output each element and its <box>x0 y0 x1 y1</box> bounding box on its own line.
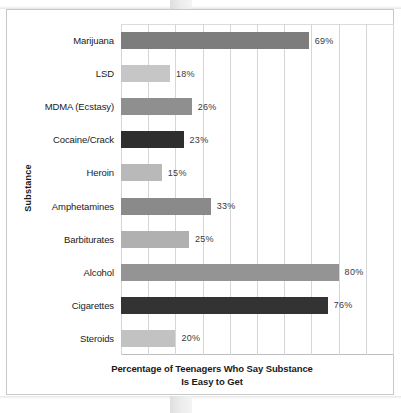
bar-cell: 76% <box>121 289 393 322</box>
bar-cell: 20% <box>121 322 393 355</box>
bar-cell: 23% <box>121 123 393 156</box>
x-axis-title: Percentage of Teenagers Who Say Substanc… <box>31 362 393 388</box>
bar-row: Steroids20% <box>31 322 393 355</box>
bar-row: Cocaine/Crack23% <box>31 123 393 156</box>
bar[interactable] <box>121 65 170 82</box>
bar[interactable] <box>121 231 189 248</box>
x-axis-title-line-1: Percentage of Teenagers Who Say Substanc… <box>31 362 393 375</box>
category-label: Heroin <box>31 167 121 178</box>
scan-artifact-top <box>170 0 192 9</box>
category-label: Cocaine/Crack <box>31 134 121 145</box>
category-label: Cigarettes <box>31 300 121 311</box>
bar-value-label: 33% <box>217 201 236 211</box>
bar-cell: 80% <box>121 256 393 289</box>
bar-cell: 26% <box>121 90 393 123</box>
bar-row: Alcohol80% <box>31 256 393 289</box>
bar-cell: 69% <box>121 24 393 57</box>
gridline-100 <box>393 24 394 355</box>
bar-row: Heroin15% <box>31 156 393 189</box>
category-label: Amphetamines <box>31 201 121 212</box>
bar[interactable] <box>121 131 184 148</box>
scan-artifact-bottom <box>170 396 192 413</box>
bar-value-label: 15% <box>168 168 187 178</box>
figure-frame: Substance Marijuana69%LSD18%MDMA (Ecstas… <box>6 9 394 395</box>
bar-value-label: 18% <box>176 69 195 79</box>
bar[interactable] <box>121 164 162 181</box>
bar-row: Amphetamines33% <box>31 189 393 222</box>
bar-row: Cigarettes76% <box>31 289 393 322</box>
bar-chart-figure: Substance Marijuana69%LSD18%MDMA (Ecstas… <box>0 0 401 413</box>
category-label: Alcohol <box>31 267 121 278</box>
bar[interactable] <box>121 32 309 49</box>
bar[interactable] <box>121 264 339 281</box>
bar[interactable] <box>121 98 192 115</box>
x-axis-title-line-2: Is Easy to Get <box>31 375 393 388</box>
bar-value-label: 80% <box>345 267 364 277</box>
bar[interactable] <box>121 198 211 215</box>
category-label: Barbiturates <box>31 234 121 245</box>
bar-cell: 25% <box>121 223 393 256</box>
bar-value-label: 76% <box>334 300 353 310</box>
bar-row: Marijuana69% <box>31 24 393 57</box>
bar[interactable] <box>121 297 328 314</box>
bar-row: LSD18% <box>31 57 393 90</box>
bar-value-label: 69% <box>315 36 334 46</box>
bar-row: MDMA (Ecstasy)26% <box>31 90 393 123</box>
bar-cell: 18% <box>121 57 393 90</box>
category-label: MDMA (Ecstasy) <box>31 101 121 112</box>
bar-rows: Marijuana69%LSD18%MDMA (Ecstasy)26%Cocai… <box>31 24 393 355</box>
category-label: LSD <box>31 68 121 79</box>
bar-value-label: 25% <box>195 234 214 244</box>
bar-value-label: 23% <box>190 135 209 145</box>
category-label: Steroids <box>31 333 121 344</box>
bar-cell: 33% <box>121 189 393 222</box>
bar-cell: 15% <box>121 156 393 189</box>
bar-value-label: 26% <box>198 102 217 112</box>
plot-area: Marijuana69%LSD18%MDMA (Ecstasy)26%Cocai… <box>31 24 393 355</box>
bar-value-label: 20% <box>181 333 200 343</box>
bar[interactable] <box>121 330 175 347</box>
scan-edge-bottom <box>0 396 401 399</box>
category-label: Marijuana <box>31 35 121 46</box>
bar-row: Barbiturates25% <box>31 223 393 256</box>
